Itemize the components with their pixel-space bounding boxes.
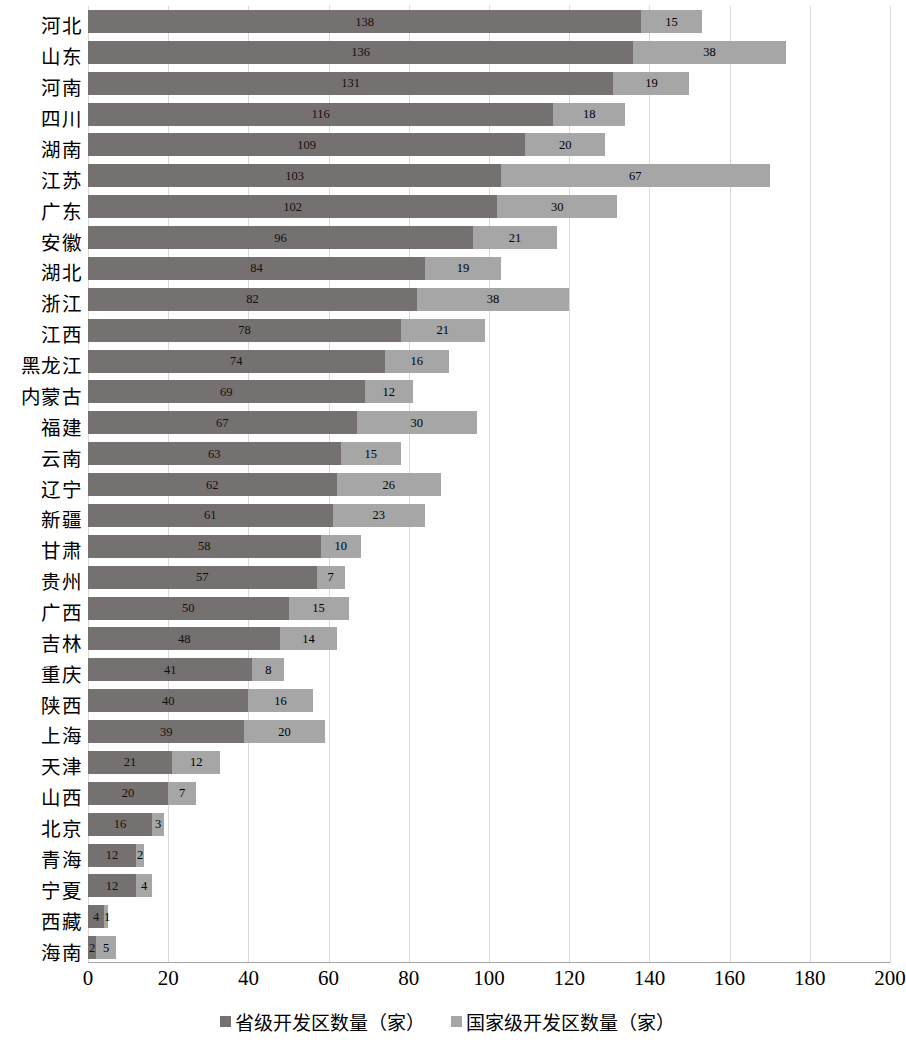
- bar-value-label: 16: [385, 355, 449, 368]
- bar-value-label: 15: [641, 15, 701, 28]
- bar-segment-national: 21: [473, 226, 557, 249]
- bar-value-label: 21: [473, 231, 557, 244]
- bar-segment-provincial: 116: [88, 103, 553, 126]
- bar-segment-provincial: 21: [88, 751, 172, 774]
- bar-row: 7821: [88, 315, 890, 347]
- category-label: 江西: [0, 319, 82, 348]
- stacked-bar: 4016: [88, 689, 313, 712]
- bar-row: 6226: [88, 469, 890, 501]
- category-label: 宁夏: [0, 875, 82, 904]
- bar-value-label: 15: [341, 447, 401, 460]
- bar-value-label: 67: [88, 417, 357, 430]
- bar-segment-provincial: 103: [88, 164, 501, 187]
- bar-value-label: 14: [280, 633, 336, 646]
- bar-value-label: 69: [88, 386, 365, 399]
- bar-segment-national: 2: [136, 844, 144, 867]
- stacked-bar: 207: [88, 782, 196, 805]
- bar-segment-national: 30: [497, 195, 617, 218]
- bar-segment-national: 15: [641, 10, 701, 33]
- stacked-bar: 124: [88, 874, 152, 897]
- bar-segment-national: 8: [252, 658, 284, 681]
- bar-segment-national: 38: [633, 41, 785, 64]
- bar-segment-provincial: 63: [88, 442, 341, 465]
- bar-value-label: 18: [553, 108, 625, 121]
- category-label: 内蒙古: [0, 381, 82, 410]
- stacked-bar: 13815: [88, 10, 702, 33]
- category-label: 福建: [0, 412, 82, 441]
- category-label: 海南: [0, 937, 82, 966]
- bar-segment-national: 26: [337, 473, 441, 496]
- bar-row: 4016: [88, 685, 890, 717]
- stacked-bar: 41: [88, 905, 108, 928]
- bar-row: 41: [88, 901, 890, 933]
- bar-rows: 1381513638131191161810920103671023096218…: [88, 6, 890, 963]
- bar-segment-national: 21: [401, 319, 485, 342]
- category-label: 广西: [0, 597, 82, 626]
- bar-segment-national: 18: [553, 103, 625, 126]
- bar-value-label: 26: [337, 478, 441, 491]
- legend-item[interactable]: 国家级开发区数量（家）: [451, 1008, 675, 1035]
- bar-segment-provincial: 62: [88, 473, 337, 496]
- category-label: 重庆: [0, 659, 82, 688]
- gridline: [890, 6, 891, 963]
- bar-value-label: 8: [252, 664, 284, 677]
- bar-value-label: 2: [88, 941, 96, 954]
- bar-row: 8419: [88, 253, 890, 285]
- bar-row: 7416: [88, 346, 890, 378]
- bar-segment-provincial: 41: [88, 658, 252, 681]
- stacked-bar: 163: [88, 813, 164, 836]
- bar-value-label: 4: [88, 911, 104, 924]
- bar-value-label: 12: [88, 849, 136, 862]
- stacked-bar: 6730: [88, 411, 477, 434]
- bar-value-label: 78: [88, 324, 401, 337]
- bar-row: 13119: [88, 68, 890, 100]
- bar-row: 5015: [88, 593, 890, 625]
- bar-row: 13638: [88, 37, 890, 69]
- bar-value-label: 41: [88, 664, 252, 677]
- bar-value-label: 38: [633, 46, 785, 59]
- bar-value-label: 2: [136, 849, 144, 862]
- bar-value-label: 19: [425, 262, 501, 275]
- bar-value-label: 63: [88, 447, 341, 460]
- stacked-bar: 7416: [88, 350, 449, 373]
- category-label: 浙江: [0, 288, 82, 317]
- bar-value-label: 116: [88, 108, 553, 121]
- stacked-bar: 6226: [88, 473, 441, 496]
- bar-segment-national: 20: [244, 720, 324, 743]
- bar-value-label: 15: [289, 602, 349, 615]
- bar-value-label: 136: [88, 46, 633, 59]
- bar-segment-provincial: 4: [88, 905, 104, 928]
- stacked-bar: 9621: [88, 226, 557, 249]
- bar-segment-provincial: 84: [88, 257, 425, 280]
- category-label: 贵州: [0, 566, 82, 595]
- bar-value-label: 48: [88, 633, 280, 646]
- plot-area: 1381513638131191161810920103671023096218…: [88, 6, 890, 963]
- bar-segment-provincial: 48: [88, 627, 280, 650]
- bar-segment-provincial: 39: [88, 720, 244, 743]
- bar-row: 122: [88, 840, 890, 872]
- stacked-bar: 11618: [88, 103, 625, 126]
- stacked-bar: 5810: [88, 535, 361, 558]
- bar-value-label: 3: [152, 818, 164, 831]
- bar-row: 13815: [88, 6, 890, 38]
- bar-row: 6315: [88, 438, 890, 470]
- bar-segment-national: 14: [280, 627, 336, 650]
- stacked-bar: 13119: [88, 72, 689, 95]
- category-label: 四川: [0, 103, 82, 132]
- bar-value-label: 38: [417, 293, 569, 306]
- bar-segment-national: 10: [321, 535, 361, 558]
- stacked-bar: 13638: [88, 41, 786, 64]
- legend-item[interactable]: 省级开发区数量（家）: [220, 1008, 425, 1035]
- bar-value-label: 20: [244, 725, 324, 738]
- bar-value-label: 138: [88, 15, 641, 28]
- category-label: 安徽: [0, 227, 82, 256]
- bar-segment-provincial: 58: [88, 535, 321, 558]
- chart-legend: 省级开发区数量（家）国家级开发区数量（家）: [0, 1008, 895, 1035]
- bar-value-label: 50: [88, 602, 289, 615]
- bar-segment-national: 12: [172, 751, 220, 774]
- x-tick-label: 60: [318, 966, 339, 991]
- category-label: 江苏: [0, 165, 82, 194]
- bar-row: 124: [88, 870, 890, 902]
- x-tick-label: 180: [794, 966, 826, 991]
- stacked-bar: 418: [88, 658, 284, 681]
